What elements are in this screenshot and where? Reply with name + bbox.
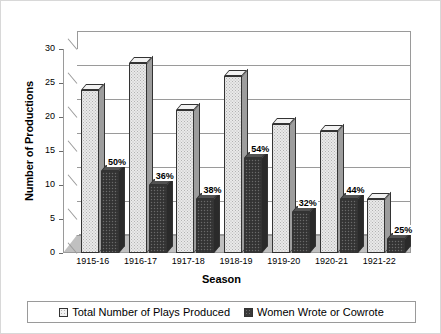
bar-side bbox=[167, 178, 173, 253]
y-tick-label: 20 bbox=[31, 111, 55, 121]
legend-label: Women Wrote or Cowrote bbox=[257, 306, 384, 318]
bar-dark-1919-20 bbox=[292, 212, 310, 253]
y-axis-title: Number of Productions bbox=[23, 41, 39, 241]
bar-dark-1918-19 bbox=[244, 158, 262, 253]
y-axis-title-text: Number of Productions bbox=[23, 41, 35, 241]
bar-face bbox=[367, 199, 385, 253]
y-tick-label: 10 bbox=[31, 179, 55, 189]
legend-swatch-icon bbox=[59, 308, 68, 317]
bar-side bbox=[310, 205, 316, 253]
bar-face bbox=[81, 90, 99, 253]
bar-light-1915-16 bbox=[81, 90, 99, 253]
x-tick-label-1917-18: 1917-18 bbox=[162, 256, 214, 266]
bar-dark-1921-22 bbox=[387, 239, 405, 253]
x-axis-title: Season bbox=[1, 273, 441, 285]
bar-face bbox=[149, 185, 167, 253]
percent-label-1917-18: 38% bbox=[202, 185, 222, 195]
percent-label-1920-21: 44% bbox=[346, 185, 366, 195]
y-tick-mark bbox=[59, 185, 63, 186]
y-tick-mark bbox=[59, 49, 63, 50]
chart-container: Number of Productions Overall Participat… bbox=[0, 0, 441, 334]
bar-face bbox=[224, 76, 242, 253]
chart-legend: Total Number of Plays ProducedWomen Wrot… bbox=[27, 301, 416, 323]
percent-label-1919-20: 32% bbox=[298, 198, 318, 208]
bar-light-1918-19 bbox=[224, 76, 242, 253]
bar-side bbox=[119, 164, 125, 253]
bar-face bbox=[272, 124, 290, 253]
x-tick-label-1918-19: 1918-19 bbox=[210, 256, 262, 266]
bar-dark-1920-21 bbox=[340, 199, 358, 253]
plot-left-edge bbox=[63, 49, 64, 253]
y-tick-label: 5 bbox=[31, 213, 55, 223]
percent-label-1915-16: 50% bbox=[107, 157, 127, 167]
bar-side bbox=[214, 191, 220, 253]
bar-face bbox=[244, 158, 262, 253]
x-tick-label-1921-22: 1921-22 bbox=[353, 256, 405, 266]
y-tick-mark bbox=[59, 253, 63, 254]
plot-area: 50%36%38%54%32%44%25% bbox=[63, 31, 411, 253]
x-tick-label-1915-16: 1915-16 bbox=[67, 256, 119, 266]
x-tick-label-1916-17: 1916-17 bbox=[115, 256, 167, 266]
bar-light-1917-18 bbox=[176, 110, 194, 253]
percent-label-1918-19: 54% bbox=[250, 144, 270, 154]
y-tick-label: 0 bbox=[31, 247, 55, 257]
x-tick-label-1919-20: 1919-20 bbox=[258, 256, 310, 266]
bar-light-1921-22 bbox=[367, 199, 385, 253]
x-tick-label-1920-21: 1920-21 bbox=[305, 256, 357, 266]
legend-swatch-icon bbox=[244, 308, 253, 317]
y-tick-mark bbox=[59, 219, 63, 220]
y-tick-label: 15 bbox=[31, 145, 55, 155]
y-tick-mark bbox=[59, 83, 63, 84]
bar-face bbox=[196, 199, 214, 253]
gridline bbox=[77, 65, 411, 66]
y-tick-mark bbox=[59, 117, 63, 118]
percent-label-1916-17: 36% bbox=[155, 171, 175, 181]
bar-side bbox=[358, 191, 364, 253]
x-axis-ticks: 1915-161916-171917-181918-191919-201920-… bbox=[63, 256, 411, 270]
bar-face bbox=[129, 63, 147, 253]
bar-face bbox=[101, 171, 119, 253]
bar-dark-1917-18 bbox=[196, 199, 214, 253]
legend-item-2: Women Wrote or Cowrote bbox=[244, 306, 384, 318]
percent-label-1921-22: 25% bbox=[393, 225, 413, 235]
bar-face bbox=[340, 199, 358, 253]
bar-dark-1915-16 bbox=[101, 171, 119, 253]
bar-side bbox=[262, 151, 268, 253]
bar-face bbox=[176, 110, 194, 253]
legend-item-1: Total Number of Plays Produced bbox=[59, 306, 230, 318]
bar-face bbox=[292, 212, 310, 253]
bar-dark-1916-17 bbox=[149, 185, 167, 253]
y-tick-mark bbox=[59, 151, 63, 152]
bar-face bbox=[387, 239, 405, 253]
legend-label: Total Number of Plays Produced bbox=[72, 306, 230, 318]
bar-light-1919-20 bbox=[272, 124, 290, 253]
y-tick-label: 30 bbox=[31, 43, 55, 53]
bar-light-1916-17 bbox=[129, 63, 147, 253]
gridline bbox=[77, 31, 411, 32]
y-tick-label: 25 bbox=[31, 77, 55, 87]
bar-light-1920-21 bbox=[320, 131, 338, 253]
bar-face bbox=[320, 131, 338, 253]
